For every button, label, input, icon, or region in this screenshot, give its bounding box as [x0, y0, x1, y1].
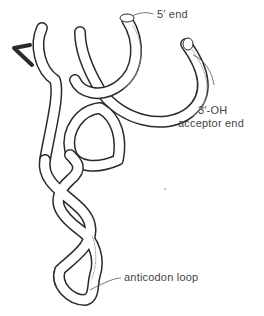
three-prime-end-cap: [183, 38, 193, 50]
five-prime-end-label: 5′ end: [157, 8, 188, 20]
trna-diagram: 5′ end 3′-OH acceptor end anticodon loop: [0, 0, 264, 316]
d-arm-left: [14, 28, 56, 160]
acceptor-end-label: acceptor end: [178, 117, 244, 129]
five-prime-leader: [132, 13, 153, 16]
anticodon-loop-label: anticodon loop: [124, 271, 198, 283]
five-prime-end-cap: [120, 14, 134, 22]
anticodon-stem: [45, 155, 97, 300]
stray-dot: [164, 188, 166, 190]
three-prime-oh-label: 3′-OH: [198, 104, 227, 116]
trna-tube-drawing: [0, 0, 264, 316]
